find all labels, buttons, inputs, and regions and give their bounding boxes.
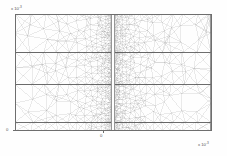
plot-area [15,14,211,131]
y-axis-tick-mark [13,130,15,131]
slit-crack [111,14,114,131]
x-axis-tick-label-0: 0 [100,134,102,138]
y-axis-multiplier-exponent: -3 [19,5,22,9]
x-axis-multiplier-label: x 10-3 [198,142,209,148]
axis-spine-bottom [15,130,211,131]
axis-spine-right [211,14,212,131]
x-axis-multiplier-base: x 10 [198,142,206,147]
y-axis-multiplier-base: x 10 [11,6,19,11]
x-axis-tick-mark [103,131,104,133]
y-axis-multiplier-label: x 10-3 [11,6,22,12]
axis-spine-top [15,14,211,15]
mesh-figure: x 10-3 0 0 x 10-3 [0,0,227,156]
y-axis-tick-label-0: 0 [6,128,8,132]
x-axis-multiplier-exponent: -3 [206,141,209,145]
axis-spine-left [15,14,16,131]
slit-opening [111,14,114,131]
triangular-mesh [15,14,211,131]
